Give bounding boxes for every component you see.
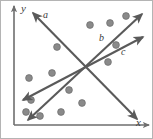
y-axis-label: y: [21, 3, 26, 14]
line-label-b: b: [99, 33, 104, 43]
data-point: [105, 59, 112, 66]
figure-border: [1, 1, 153, 139]
data-point: [37, 113, 44, 120]
data-point: [23, 109, 30, 116]
data-point: [113, 42, 120, 49]
data-point: [123, 13, 130, 20]
line-label-a: a: [43, 10, 48, 20]
data-point: [66, 87, 73, 94]
scatter-plot-figure: y x a b c: [0, 0, 153, 139]
data-point: [58, 109, 65, 116]
line-label-c: c: [121, 47, 125, 57]
data-point: [107, 20, 114, 27]
data-point: [54, 44, 61, 51]
data-point: [26, 75, 33, 82]
plot-canvas: [0, 0, 153, 139]
data-point: [87, 22, 94, 29]
data-point: [49, 70, 56, 77]
data-point: [79, 100, 86, 107]
x-axis-label: x: [136, 117, 141, 128]
